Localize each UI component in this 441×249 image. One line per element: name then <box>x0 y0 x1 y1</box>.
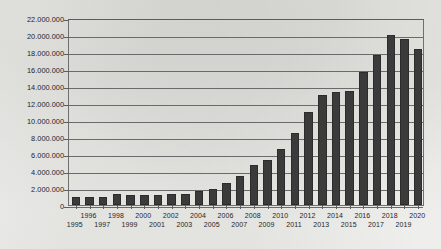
x-axis-tick <box>144 205 145 209</box>
x-axis-tick-label: 2006 <box>217 212 233 219</box>
x-axis-tick <box>391 205 392 209</box>
x-axis-tick <box>268 205 269 209</box>
x-axis-tick <box>185 205 186 209</box>
x-axis-tick <box>103 205 104 209</box>
x-axis-tick-label: 2008 <box>245 212 261 219</box>
bar <box>99 197 107 205</box>
x-axis-tick-label: 2011 <box>286 221 301 228</box>
x-axis-tick <box>350 205 351 209</box>
x-axis-tick <box>404 205 405 209</box>
bar <box>236 176 244 205</box>
x-axis-tick <box>226 205 227 209</box>
y-axis-tick-label: 8.000.000 <box>0 134 64 143</box>
y-axis-tick-label: 14.000.000 <box>0 83 64 92</box>
x-axis-tick <box>131 205 132 209</box>
x-axis-tick-label: 2017 <box>368 221 384 228</box>
y-axis-tick-label: 18.000.000 <box>0 49 64 58</box>
y-axis-tick-label: 12.000.000 <box>0 100 64 109</box>
y-axis-tick-label: 0 <box>0 202 64 211</box>
bar <box>250 165 258 205</box>
x-axis-tick-label: 2019 <box>395 221 411 228</box>
bar <box>181 194 189 205</box>
bar <box>387 35 395 205</box>
bar <box>291 133 299 205</box>
bar <box>373 55 381 205</box>
x-axis-tick-label: 2010 <box>272 212 288 219</box>
y-axis-tick-label: 2.000.000 <box>0 185 64 194</box>
bar <box>277 149 285 205</box>
bar <box>359 72 367 205</box>
bar <box>400 39 408 205</box>
x-axis-tick-label: 2005 <box>204 221 220 228</box>
bar <box>85 197 93 206</box>
x-axis-tick <box>363 205 364 209</box>
x-axis-tick <box>322 205 323 209</box>
y-axis-tick-label: 22.000.000 <box>0 15 64 24</box>
bar <box>113 194 121 205</box>
bar <box>345 91 353 205</box>
y-axis-tick-label: 6.000.000 <box>0 151 64 160</box>
x-axis-tick <box>76 205 77 209</box>
x-axis-tick-label: 1998 <box>108 212 124 219</box>
bar <box>140 195 148 205</box>
bar <box>167 194 175 205</box>
x-axis-tick-label: 1999 <box>122 221 138 228</box>
bar <box>304 112 312 206</box>
x-axis-tick <box>254 205 255 209</box>
x-axis-tick <box>295 205 296 209</box>
x-axis-tick <box>240 205 241 209</box>
x-axis-tick <box>158 205 159 209</box>
x-axis-tick-label: 2016 <box>354 212 370 219</box>
x-axis-tick-label: 2018 <box>382 212 398 219</box>
y-axis-tick-label: 20.000.000 <box>0 32 64 41</box>
x-axis-tick <box>377 205 378 209</box>
x-axis-tick <box>199 205 200 209</box>
x-axis-tick <box>213 205 214 209</box>
y-axis-tick-label: 4.000.000 <box>0 168 64 177</box>
x-axis-tick-label: 2012 <box>300 212 316 219</box>
x-axis-tick <box>309 205 310 209</box>
x-axis-tick-label: 1996 <box>81 212 97 219</box>
x-axis-tick-label: 2001 <box>149 221 165 228</box>
y-axis-tick-label: 10.000.000 <box>0 117 64 126</box>
bar-chart: 02.000.0004.000.0006.000.0008.000.00010.… <box>0 0 441 249</box>
x-axis-tick-label: 2015 <box>341 221 357 228</box>
x-axis-tick <box>90 205 91 209</box>
x-axis-tick-label: 2009 <box>259 221 275 228</box>
bar <box>126 195 134 205</box>
y-axis-tick <box>64 207 69 208</box>
bar <box>154 195 162 205</box>
x-axis-tick-label: 1997 <box>94 221 110 228</box>
x-axis-tick-label: 2013 <box>313 221 329 228</box>
gridline <box>69 207 423 208</box>
bar-series <box>69 20 423 205</box>
bar <box>263 160 271 205</box>
x-axis-tick-label: 2004 <box>190 212 206 219</box>
x-axis-tick-label: 2007 <box>231 221 247 228</box>
bar <box>222 183 230 205</box>
bar <box>332 92 340 205</box>
x-axis-tick-label: 2002 <box>163 212 179 219</box>
x-axis-tick <box>418 205 419 209</box>
plot-area <box>68 19 424 206</box>
x-axis-tick-label: 2020 <box>409 212 425 219</box>
bar <box>72 197 80 205</box>
bar <box>209 189 217 205</box>
bar <box>414 49 422 205</box>
bar <box>318 95 326 205</box>
x-axis-tick-label: 2014 <box>327 212 343 219</box>
x-axis-tick <box>117 205 118 209</box>
x-axis-tick-label: 2000 <box>135 212 151 219</box>
y-axis-tick-label: 16.000.000 <box>0 66 64 75</box>
x-axis-tick-label: 1995 <box>67 221 83 228</box>
x-axis-tick <box>281 205 282 209</box>
x-axis-tick <box>172 205 173 209</box>
x-axis-tick <box>336 205 337 209</box>
bar <box>195 191 203 205</box>
x-axis-tick-label: 2003 <box>176 221 192 228</box>
